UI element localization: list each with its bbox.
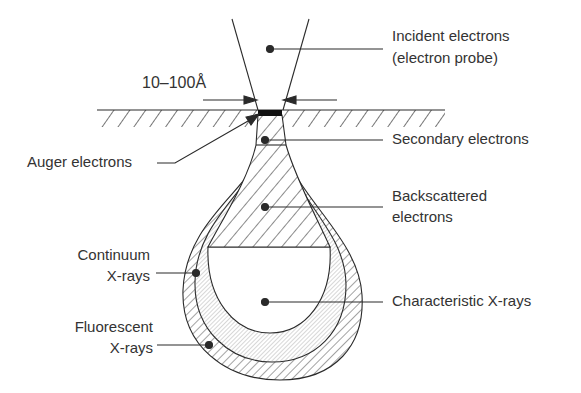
probe-size-arrows [203, 96, 337, 104]
label-backscattered-electrons: electrons [392, 207, 453, 227]
label-probe-size: 10–100Å [142, 73, 206, 93]
label-fluorescent-xrays: X-rays [50, 338, 153, 358]
label-continuum-xrays: X-rays [58, 266, 150, 286]
label-incident-electrons: Incident electrons [392, 26, 510, 46]
label-auger-electrons: Auger electrons [27, 152, 132, 172]
probe-spot [258, 110, 282, 116]
label-electron-probe: (electron probe) [392, 48, 498, 68]
label-secondary-electrons: Secondary electrons [392, 129, 529, 149]
label-backscattered: Backscattered [392, 186, 487, 206]
label-fluorescent: Fluorescent [50, 317, 153, 337]
label-continuum: Continuum [58, 245, 150, 265]
label-characteristic-xrays: Characteristic X-rays [392, 291, 531, 311]
